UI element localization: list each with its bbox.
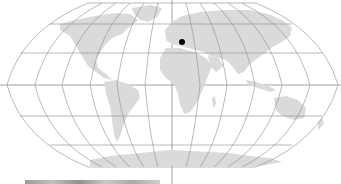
legend-bar xyxy=(25,180,160,184)
australia xyxy=(274,96,306,120)
location-marker-dot[interactable] xyxy=(179,39,185,45)
africa xyxy=(160,48,212,114)
madagascar xyxy=(212,96,216,108)
antarctica xyxy=(90,150,282,166)
southeast-asia-islands xyxy=(246,80,276,92)
world-map xyxy=(0,0,341,184)
